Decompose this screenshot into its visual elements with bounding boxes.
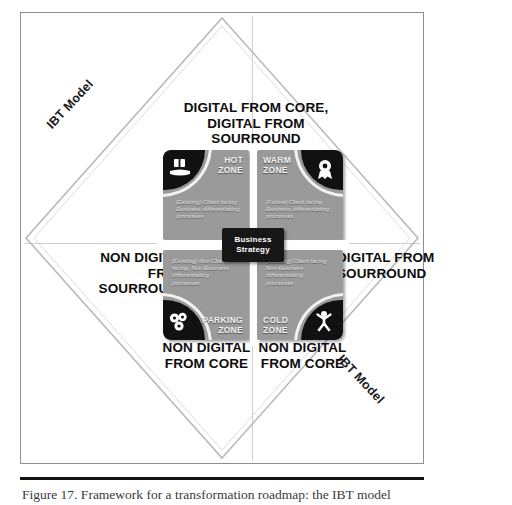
cold-zone-label-line1: COLD xyxy=(263,315,288,325)
gears-icon xyxy=(168,311,190,333)
warm-zone-label: WARM ZONE xyxy=(263,155,291,175)
parking-zone-label: PARKING ZONE xyxy=(202,315,243,335)
parking-zone-label-line1: PARKING xyxy=(202,315,243,325)
business-strategy-box[interactable]: Business Strategy xyxy=(222,228,284,262)
parking-zone-label-line2: ZONE xyxy=(202,325,243,335)
warm-zone-icon-corner xyxy=(301,150,343,190)
quadrant-hot-zone[interactable]: HOT ZONE (Existing) Client facing Busine… xyxy=(163,150,249,240)
axis-label-bottom-left: NON DIGITAL FROM CORE xyxy=(160,340,253,371)
axis-label-right: DIGITAL FROM SOURROUND xyxy=(337,250,447,281)
hot-zone-icon-corner xyxy=(163,150,205,190)
quadrant-cold-zone[interactable]: COLD ZONE (Existing) Client facing Non B… xyxy=(257,250,343,340)
hot-zone-label-line1: HOT xyxy=(218,155,243,165)
cold-zone-label: COLD ZONE xyxy=(263,315,288,335)
parking-zone-icon-corner xyxy=(163,300,205,340)
person-raised-arms-icon xyxy=(314,310,334,332)
quadrant-parking-zone[interactable]: PARKING ZONE (Existing) Non Client facin… xyxy=(163,250,249,340)
business-strategy-line1: Business xyxy=(234,235,271,246)
figure-caption: Figure 17. Framework for a transformatio… xyxy=(22,487,462,503)
cold-zone-label-line2: ZONE xyxy=(263,325,288,335)
warm-zone-label-line2: ZONE xyxy=(263,165,291,175)
warm-zone-label-line1: WARM xyxy=(263,155,291,165)
cold-zone-icon-corner xyxy=(301,300,343,340)
hot-zone-label-line2: ZONE xyxy=(218,165,243,175)
warm-zone-description: (Future) Client facing Business differen… xyxy=(266,199,332,221)
hot-zone-description: (Existing) Client facing Business differ… xyxy=(176,199,242,221)
axis-label-bottom-right: NON DIGITAL FROM CORE xyxy=(256,340,349,371)
quadrant-warm-zone[interactable]: WARM ZONE (Future) Client facing Busines… xyxy=(257,150,343,240)
hot-zone-label: HOT ZONE xyxy=(218,155,243,175)
business-strategy-line2: Strategy xyxy=(236,245,270,256)
axis-label-top: DIGITAL FROM CORE, DIGITAL FROM SOURROUN… xyxy=(168,100,344,147)
zone-matrix: HOT ZONE (Existing) Client facing Busine… xyxy=(163,150,343,340)
award-ribbon-icon xyxy=(315,158,335,180)
figure-page: IBT Model IBT Model DIGITAL FROM CORE, D… xyxy=(0,0,512,505)
parking-zone-description: (Existing) Non Client facing, Non Busine… xyxy=(172,258,238,287)
hand-holding-box-icon xyxy=(169,158,191,178)
caption-divider xyxy=(20,477,424,480)
cold-zone-description: (Existing) Client facing Non Business di… xyxy=(266,258,332,287)
